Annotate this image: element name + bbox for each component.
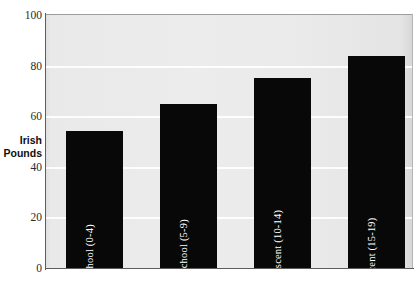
bar-early-school[interactable]: Early School (5-9)	[160, 104, 217, 269]
y-axis-title-line1: Irish	[0, 134, 42, 147]
plot-border-top	[45, 14, 413, 15]
plot-area: Pre-school (0-4) Early School (5-9) Pre-…	[45, 15, 412, 268]
y-axis-title: Irish Pounds	[0, 134, 42, 159]
y-axis-title-line2: Pounds	[0, 147, 42, 160]
bar-label-adolescent: Adolescent (15-19)	[366, 218, 377, 268]
y-axis-line	[45, 13, 46, 270]
y-tick-20: 20	[2, 211, 42, 223]
bar-pre-school[interactable]: Pre-school (0-4)	[66, 131, 123, 268]
bar-label-early-school: Early School (5-9)	[178, 219, 189, 268]
bar-label-pre-adolescent: Pre-adolescent (10-14)	[272, 210, 283, 268]
y-tick-80: 80	[2, 60, 42, 72]
bar-adolescent[interactable]: Adolescent (15-19)	[348, 56, 405, 269]
bar-label-pre-school: Pre-school (0-4)	[84, 224, 95, 268]
bar-pre-adolescent[interactable]: Pre-adolescent (10-14)	[254, 78, 311, 268]
y-tick-0: 0	[2, 262, 42, 274]
y-tick-100: 100	[2, 9, 42, 21]
bar-chart: 100 80 60 40 20 0 Irish Pounds Pre-schoo…	[0, 0, 418, 286]
y-tick-60: 60	[2, 110, 42, 122]
plot-border-right	[412, 14, 413, 269]
x-axis-line	[45, 268, 414, 269]
y-tick-40: 40	[2, 161, 42, 173]
